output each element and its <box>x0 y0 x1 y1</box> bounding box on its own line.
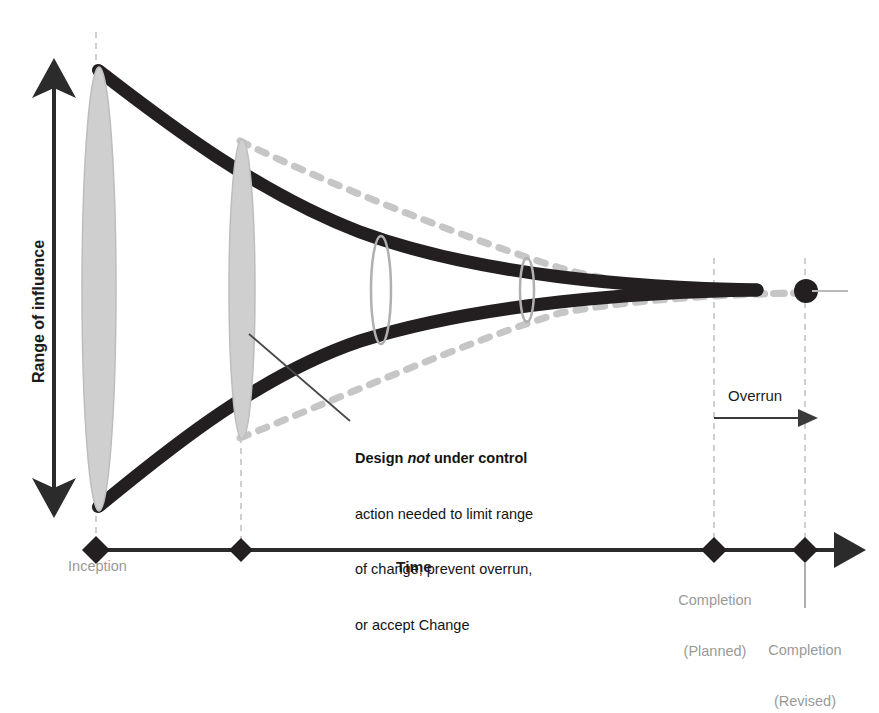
annotation-heading-after: under control <box>430 450 527 466</box>
annotation-heading-italic: not <box>407 450 430 466</box>
x-tick-label-inception: Inception <box>40 558 155 575</box>
x-tick-completion-revised <box>792 537 818 563</box>
annotation-heading: Design not under control <box>355 449 595 468</box>
x-tick-label-completion-revised-line2: (Revised) <box>745 693 865 710</box>
annotation-line-2: action needed to limit range <box>355 505 595 524</box>
y-axis-title: Range of influence <box>30 240 48 383</box>
x-axis-arrow-right <box>834 532 866 568</box>
controlled-curve-upper <box>99 71 757 290</box>
range-ellipse-marker-a <box>371 236 391 344</box>
annotation-line-3: of change, prevent overrun, <box>355 560 595 579</box>
annotation-line-4: or accept Change <box>355 616 595 635</box>
overrun-label: Overrun <box>728 387 782 404</box>
annotation-heading-before: Design <box>355 450 407 466</box>
bottom-caption-strip <box>0 644 879 667</box>
range-ellipse-inception <box>82 67 116 511</box>
x-tick-label-completion-planned-line1: Completion <box>655 592 775 609</box>
annotation-callout: Design not under control action needed t… <box>355 412 595 671</box>
range-ellipse-second-milestone <box>229 139 255 439</box>
x-tick-second-milestone <box>229 538 253 562</box>
